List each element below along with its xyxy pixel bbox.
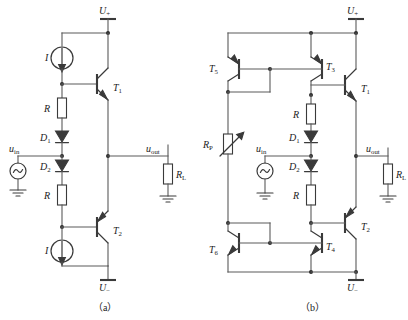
label-d1-a: D1: [39, 132, 51, 144]
label-rail-negative-b: U−: [347, 282, 358, 294]
label-d2-a: D2: [39, 161, 51, 173]
t2-collector-lead-b: [345, 228, 356, 239]
t6-collector-lead-b: [228, 231, 239, 238]
label-load-resistor-a: RL: [175, 169, 186, 181]
caption-b: （b）: [300, 302, 325, 313]
circuit-diagram-svg: U+ I T1 R D1 D2 R uin uout RL T2 I U− （a…: [0, 0, 408, 320]
resistor-bottom-b: [307, 185, 316, 205]
label-t3-b: T3: [326, 61, 336, 73]
figure-canvas: U+ I T1 R D1 D2 R uin uout RL T2 I U− （a…: [0, 0, 408, 320]
label-d1-b: D1: [288, 132, 300, 144]
label-rail-positive-b: U+: [347, 5, 358, 17]
resistor-top-a: [58, 98, 67, 118]
label-uout-b: uout: [366, 143, 380, 155]
label-rail-positive-a: U+: [99, 5, 110, 17]
label-d2-b: D2: [288, 161, 300, 173]
t6-emitter-arrow-b: [229, 246, 236, 255]
diode-d1-body-b: [305, 131, 318, 142]
label-t2-b: T2: [361, 221, 371, 233]
label-t4-b: T4: [326, 241, 336, 253]
diode-d2-body-b: [305, 160, 318, 171]
load-resistor-b: [384, 164, 393, 184]
load-resistor-a: [164, 164, 173, 184]
label-t5-b: T5: [209, 63, 219, 75]
label-t1-b: T1: [361, 83, 370, 95]
t4-collector-lead-b: [311, 231, 322, 238]
ac-source-sine-b: [260, 170, 269, 173]
resistor-bottom-a: [58, 185, 67, 205]
t1-collector-lead-b: [345, 69, 356, 80]
t1-collector-lead-a: [97, 68, 108, 79]
t3-emitter-arrow-b: [314, 55, 321, 64]
label-t1-a: T1: [113, 82, 122, 94]
label-uin-a: uin: [9, 143, 20, 155]
diode-d1-body-a: [56, 131, 69, 142]
label-resistor-top-b: R: [292, 109, 299, 120]
label-t6-b: T6: [209, 244, 219, 256]
label-t2-a: T2: [113, 225, 123, 237]
t5-collector-lead-b: [228, 74, 239, 81]
resistor-top-b: [307, 104, 316, 124]
label-uout-a: uout: [146, 143, 160, 155]
label-current-source-top-a: I: [44, 52, 49, 63]
label-uin-b: uin: [256, 143, 267, 155]
label-rail-negative-a: U−: [99, 282, 110, 294]
label-load-resistor-b: RL: [395, 169, 406, 181]
t1-emitter-arrow-a: [100, 90, 108, 99]
t5-emitter-arrow-b: [231, 55, 238, 64]
label-current-source-bottom-a: I: [44, 245, 49, 256]
label-resistor-top-a: R: [43, 103, 50, 114]
t2-collector-lead-a: [97, 232, 108, 243]
ac-source-sine-a: [13, 170, 22, 173]
t4-emitter-arrow-b: [312, 246, 319, 255]
label-resistor-bottom-b: R: [292, 190, 299, 201]
t3-collector-lead-b: [311, 74, 322, 81]
caption-a: （a）: [93, 302, 117, 313]
t1-emitter-arrow-b: [348, 91, 356, 100]
diode-d2-body-a: [56, 160, 69, 171]
label-potentiometer-b: RP: [202, 139, 213, 151]
label-resistor-bottom-a: R: [43, 190, 50, 201]
